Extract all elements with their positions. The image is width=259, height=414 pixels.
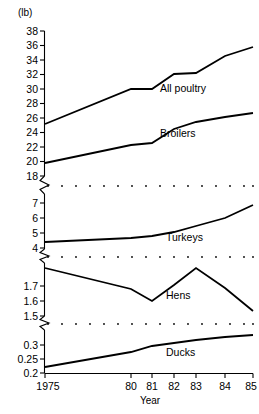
ytick-label: 6	[32, 212, 38, 224]
axis-break-1	[40, 176, 254, 194]
series-label-all-poultry: All poultry	[160, 82, 207, 94]
series-line-all-poultry	[45, 47, 253, 124]
series-line-ducks	[45, 335, 253, 367]
ytick-label: 36	[26, 39, 38, 51]
xtick-label: 84	[219, 380, 231, 392]
ytick-label: 34	[26, 54, 38, 66]
series-label-turkeys: Turkeys	[166, 231, 203, 243]
series-line-hens	[45, 268, 253, 311]
ytick-label: 32	[26, 68, 38, 80]
xtick-label: 82	[168, 380, 180, 392]
hens-panel: 1.7 1.6 1.5 Hens	[23, 263, 253, 322]
ytick-label: 1.6	[23, 295, 38, 307]
poultry-consumption-chart: (lb) 38 36 34 32 30 28 26	[0, 0, 259, 414]
ytick-label: 22	[26, 141, 38, 153]
xtick-label: 1975	[36, 380, 60, 392]
y-axis-unit-label: (lb)	[18, 7, 32, 18]
break-dot-row-3	[47, 323, 254, 325]
ytick-label: 26	[26, 112, 38, 124]
ducks-panel-yticks	[40, 345, 45, 373]
xtick-label: 83	[190, 380, 202, 392]
ytick-label: 1.5	[23, 310, 38, 322]
series-label-broilers: Broilers	[160, 127, 196, 139]
xtick-label: 85	[245, 380, 257, 392]
ytick-label: 0.2	[23, 367, 38, 379]
series-label-hens: Hens	[166, 289, 191, 301]
chart-container: (lb) 38 36 34 32 30 28 26	[0, 0, 259, 414]
ytick-label: 30	[26, 83, 38, 95]
xtick-label: 80	[125, 380, 137, 392]
ducks-panel: 0.3 0.25 0.2 Ducks	[18, 330, 253, 379]
series-label-ducks: Ducks	[166, 346, 195, 358]
ytick-label: 28	[26, 97, 38, 109]
series-line-broilers	[45, 113, 253, 163]
ytick-label: 4	[32, 242, 38, 254]
ytick-label: 0.25	[18, 353, 39, 365]
ytick-label: 20	[26, 155, 38, 167]
series-line-turkeys	[45, 205, 253, 242]
ytick-label: 1.7	[23, 280, 38, 292]
x-axis-ticks	[45, 374, 253, 379]
break-dot-row-1	[47, 185, 254, 187]
turkeys-panel: 7 6 5 4 Turkeys	[32, 194, 253, 254]
ytick-label: 18	[26, 170, 38, 182]
axis-break-3	[40, 316, 254, 330]
axis-break-2	[40, 249, 254, 263]
ytick-label: 0.3	[23, 339, 38, 351]
xtick-label: 81	[146, 380, 158, 392]
ytick-label: 5	[32, 227, 38, 239]
x-axis: 1975 80 81 82 83 84 85 Year	[36, 374, 257, 407]
ytick-label: 38	[26, 25, 38, 37]
poultry-panel-yticks	[40, 31, 45, 176]
poultry-panel: 38 36 34 32 30 28 26 24 22 20 18 All pou…	[26, 25, 253, 182]
turkeys-panel-yticks	[40, 203, 45, 248]
x-axis-title: Year	[140, 395, 161, 406]
ytick-label: 7	[32, 197, 38, 209]
ytick-label: 24	[26, 126, 38, 138]
hens-panel-yticks	[40, 286, 45, 316]
break-dot-row-2	[47, 256, 254, 258]
